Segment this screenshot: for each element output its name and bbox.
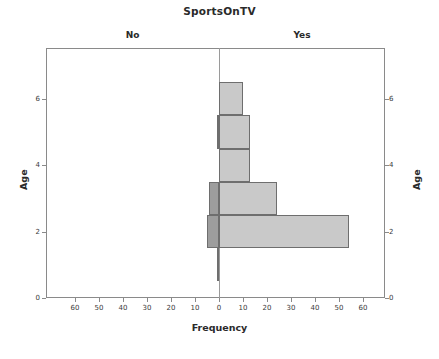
x-tick-label-no-40: 40 bbox=[111, 304, 135, 312]
x-tick-label-yes-20: 20 bbox=[255, 304, 279, 312]
x-tick-yes-10 bbox=[243, 298, 244, 302]
panel-header-no: No bbox=[46, 30, 219, 40]
bar-no-age-1 bbox=[217, 248, 219, 281]
bar-yes-age-3 bbox=[219, 182, 277, 215]
bar-no-age-3 bbox=[209, 182, 219, 215]
x-tick-yes-50 bbox=[339, 298, 340, 302]
x-tick-no-10 bbox=[195, 298, 196, 302]
x-tick-no-20 bbox=[171, 298, 172, 302]
x-tick-label-no-50: 50 bbox=[87, 304, 111, 312]
x-tick-label-no-0: 0 bbox=[207, 304, 231, 312]
x-tick-label-yes-40: 40 bbox=[303, 304, 327, 312]
y-tick-left-6 bbox=[42, 99, 46, 100]
x-tick-yes-30 bbox=[291, 298, 292, 302]
y-tick-label-left-4: 4 bbox=[26, 161, 40, 169]
y-tick-label-left-2: 2 bbox=[26, 228, 40, 236]
x-tick-label-yes-50: 50 bbox=[327, 304, 351, 312]
plot-frame bbox=[46, 48, 385, 298]
panel-header-yes: Yes bbox=[219, 30, 385, 40]
chart-canvas: SportsOnTV No Yes 6050403020100102030405… bbox=[0, 0, 439, 359]
x-tick-label-no-20: 20 bbox=[159, 304, 183, 312]
x-tick-no-60 bbox=[75, 298, 76, 302]
x-tick-label-yes-10: 10 bbox=[231, 304, 255, 312]
x-tick-no-30 bbox=[147, 298, 148, 302]
bar-no-age-2 bbox=[207, 215, 219, 248]
bar-no-age-5 bbox=[217, 115, 219, 148]
bar-yes-age-4 bbox=[219, 149, 250, 182]
y-tick-label-right-4: 4 bbox=[389, 161, 403, 169]
y-axis-title-right: Age bbox=[411, 169, 422, 190]
x-axis-title: Frequency bbox=[0, 322, 439, 333]
x-tick-yes-40 bbox=[315, 298, 316, 302]
chart-title: SportsOnTV bbox=[0, 5, 439, 17]
x-tick-label-no-10: 10 bbox=[183, 304, 207, 312]
bar-yes-age-2 bbox=[219, 215, 349, 248]
y-axis-title-left: Age bbox=[18, 169, 29, 190]
y-tick-label-right-2: 2 bbox=[389, 228, 403, 236]
x-tick-label-yes-60: 60 bbox=[351, 304, 375, 312]
x-tick-label-no-30: 30 bbox=[135, 304, 159, 312]
y-tick-left-0 bbox=[42, 298, 46, 299]
y-tick-left-4 bbox=[42, 165, 46, 166]
y-tick-label-left-0: 0 bbox=[26, 294, 40, 302]
x-tick-no-0 bbox=[219, 298, 220, 302]
x-tick-label-yes-30: 30 bbox=[279, 304, 303, 312]
x-tick-yes-20 bbox=[267, 298, 268, 302]
x-tick-yes-60 bbox=[363, 298, 364, 302]
bar-yes-age-6 bbox=[219, 82, 243, 115]
x-tick-label-no-60: 60 bbox=[63, 304, 87, 312]
y-tick-label-right-6: 6 bbox=[389, 95, 403, 103]
x-tick-no-50 bbox=[99, 298, 100, 302]
y-tick-label-right-0: 0 bbox=[389, 294, 403, 302]
y-tick-left-2 bbox=[42, 232, 46, 233]
y-tick-label-left-6: 6 bbox=[26, 95, 40, 103]
x-tick-no-40 bbox=[123, 298, 124, 302]
bar-yes-age-5 bbox=[219, 115, 250, 148]
